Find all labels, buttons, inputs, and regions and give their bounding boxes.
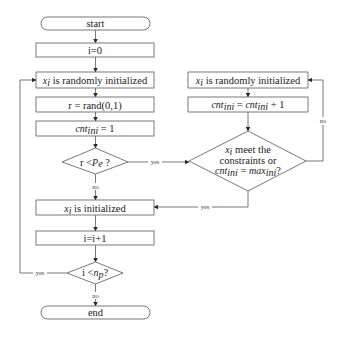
start-label: start	[86, 18, 104, 29]
left-random-init-node: xi is randomly initialized	[36, 72, 154, 88]
init-i-node: i=0	[36, 43, 154, 57]
start-node: start	[41, 17, 150, 30]
cond1-label: r <Pe ?	[80, 157, 110, 170]
cond1-yes-label: yes	[151, 158, 160, 165]
cond3-decision: xi meet the constraints or cntini = maxi…	[189, 131, 306, 191]
end-label: end	[88, 307, 104, 318]
rand-label: r = rand(0,1)	[68, 100, 122, 112]
right-random-init-node: xi is randomly initialized	[188, 72, 308, 88]
cnt-increment-node: cntini = cntini + 1	[188, 97, 308, 112]
initialized-node: xi is initialized	[36, 200, 154, 216]
cond2-label: i <np?	[82, 267, 108, 280]
cond2-no-label: no	[92, 292, 99, 299]
increment-label: i=i+1	[84, 233, 107, 244]
cnt-init-node: cntini = 1	[36, 121, 154, 136]
cond1-decision: r <Pe ?	[62, 148, 128, 174]
cond3-line3: cntini = maxini?	[215, 165, 281, 178]
flowchart: start i=0 xi is randomly initialized r =…	[0, 0, 342, 341]
cond2-decision: i <np?	[67, 262, 123, 284]
end-node: end	[41, 306, 150, 319]
cond3-no-label: no	[320, 117, 327, 124]
cond3-yes-label: yes	[201, 203, 210, 210]
rand-node: r = rand(0,1)	[36, 97, 154, 112]
increment-node: i=i+1	[36, 231, 154, 245]
cond1-no-label: no	[92, 183, 99, 190]
init-i-label: i=0	[88, 45, 102, 56]
cond2-yes-label: yes	[36, 269, 45, 276]
